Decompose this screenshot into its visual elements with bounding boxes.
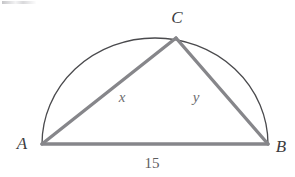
side-label-x: x [119, 90, 126, 105]
segment-cb-side-y [176, 38, 268, 144]
vertex-label-b: B [276, 138, 286, 155]
vertex-label-a: A [17, 135, 27, 152]
figure-canvas [0, 0, 295, 177]
base-length-label: 15 [145, 156, 160, 171]
geometry-figure: A B C x y 15 [0, 0, 295, 177]
segment-ac-side-x [42, 38, 176, 144]
vertex-label-c: C [171, 9, 182, 26]
side-label-y: y [193, 90, 200, 105]
